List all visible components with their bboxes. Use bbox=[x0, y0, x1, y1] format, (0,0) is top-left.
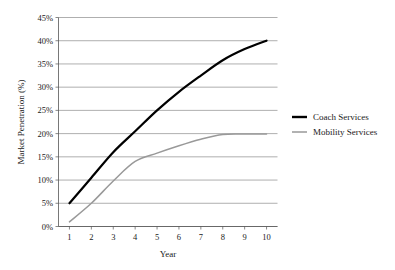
y-tick-label: 15% bbox=[37, 152, 53, 162]
x-tick-label: 6 bbox=[177, 232, 181, 242]
x-tick-label: 2 bbox=[89, 232, 93, 242]
x-tick-label: 10 bbox=[262, 232, 271, 242]
x-axis-title: Year bbox=[160, 249, 177, 259]
line-chart-canvas: 0%5%10%15%20%25%30%35%40%45% 12345678910… bbox=[0, 0, 395, 270]
y-tick-label: 0% bbox=[42, 222, 53, 232]
legend-label: Coach Services bbox=[313, 112, 369, 122]
x-tick-label: 7 bbox=[199, 232, 203, 242]
y-tick-label: 45% bbox=[37, 13, 53, 23]
x-tick-label: 9 bbox=[243, 232, 247, 242]
legend-label: Mobility Services bbox=[313, 127, 378, 137]
y-tick-label: 20% bbox=[37, 129, 53, 139]
y-tick-label: 35% bbox=[37, 59, 53, 69]
x-tick-label: 4 bbox=[133, 232, 138, 242]
y-tick-label: 30% bbox=[37, 82, 53, 92]
x-tick-label: 8 bbox=[221, 232, 225, 242]
chart-figure: 0%5%10%15%20%25%30%35%40%45% 12345678910… bbox=[0, 0, 395, 270]
x-tick-label: 5 bbox=[155, 232, 159, 242]
y-tick-label: 5% bbox=[42, 198, 53, 208]
x-tick-label: 3 bbox=[111, 232, 115, 242]
x-tick-label: 1 bbox=[67, 232, 71, 242]
y-tick-label: 25% bbox=[37, 105, 53, 115]
y-tick-label: 40% bbox=[37, 36, 53, 46]
y-tick-label: 10% bbox=[37, 175, 53, 185]
y-axis-title: Market Penetration (%) bbox=[16, 80, 26, 165]
